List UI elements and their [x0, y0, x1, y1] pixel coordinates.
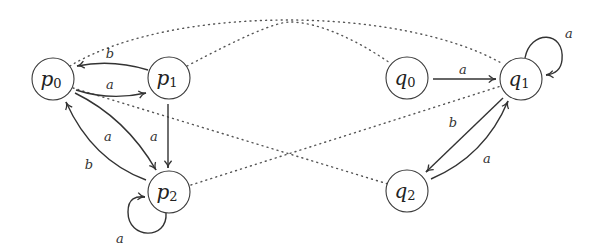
edge-p1-p0 — [77, 63, 148, 70]
edges-q — [426, 37, 562, 179]
relation-p0-q1 — [70, 20, 503, 66]
edge-labels: b a a b a a a a b a — [85, 26, 573, 246]
automata-diagram: b a a b a a a a b a p0 p1 p2 q0 q1 q2 — [0, 0, 603, 251]
relation-p2-q1 — [191, 86, 501, 185]
label-p1-p2: a — [150, 129, 158, 144]
node-q2: q2 — [386, 170, 428, 212]
label-q1-loop: a — [565, 26, 573, 41]
node-q0: q0 — [386, 57, 428, 99]
relation-p0-q2 — [73, 88, 388, 184]
node-p2: p2 — [148, 171, 190, 213]
label-p1-p0: b — [106, 46, 114, 61]
label-p2-loop: a — [116, 231, 124, 246]
label-q0-q1: a — [459, 62, 467, 77]
edge-q2-q1 — [431, 101, 508, 179]
label-p0-p2: a — [104, 129, 112, 144]
node-p0: p0 — [32, 58, 74, 100]
relation-p1-q0 — [187, 22, 390, 66]
node-q1: q1 — [500, 58, 542, 100]
label-q1-q2: b — [449, 115, 457, 130]
label-p0-p1: a — [106, 77, 114, 92]
node-p1: p1 — [148, 57, 190, 99]
edge-q1-q2 — [426, 98, 503, 172]
label-q2-q1: a — [483, 151, 491, 166]
label-p2-p0: b — [85, 157, 93, 172]
